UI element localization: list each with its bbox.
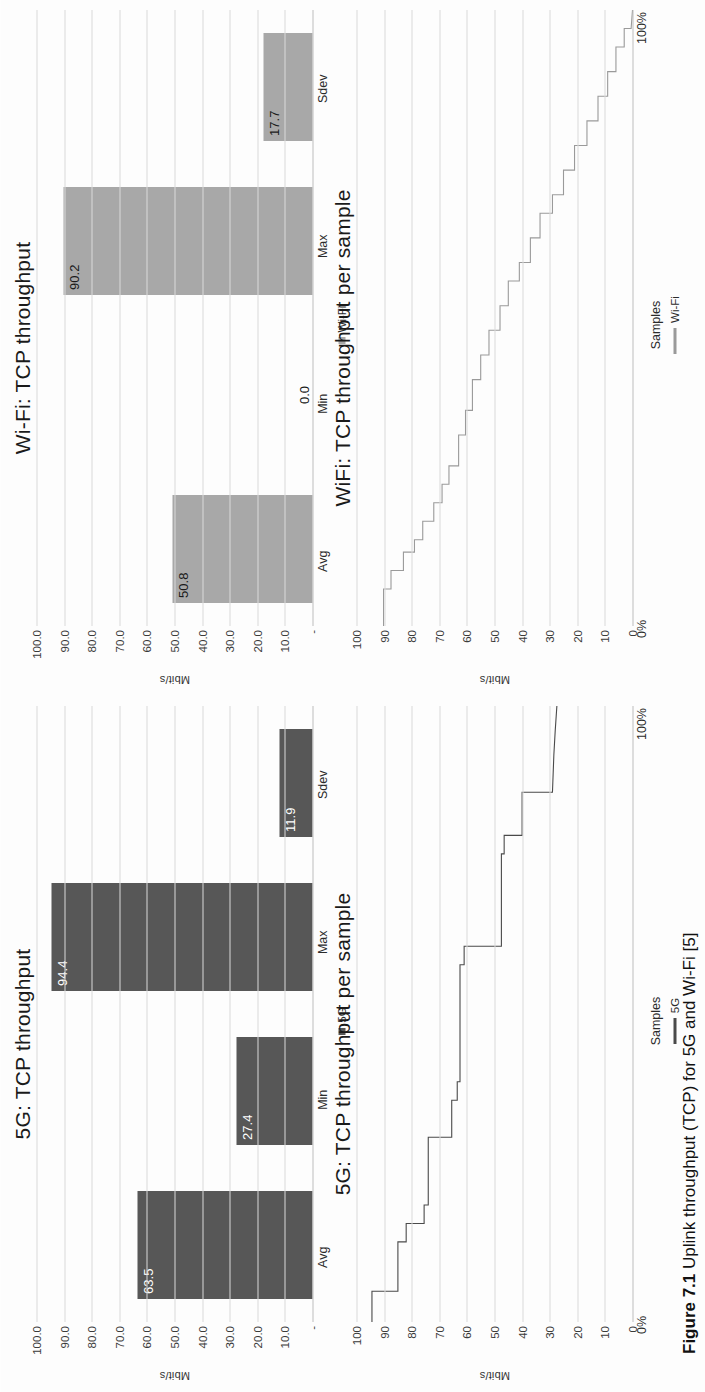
y-tick-label: 40	[516, 630, 528, 643]
gridline	[384, 10, 385, 626]
scanned-page-rotation-wrapper: 5G: TCP throughput Mbit/s 100.090.080.07…	[0, 0, 705, 1392]
gridline	[257, 10, 258, 626]
chart-title-5g-line: 5G: TCP throughput per sample	[330, 706, 354, 1382]
panel-wifi-bar-chart: Wi-Fi: TCP throughput Mbit/s 100.090.080…	[0, 0, 320, 696]
gridline	[174, 10, 175, 626]
y-tick-label: 90.0	[58, 630, 70, 652]
series-path	[383, 10, 632, 626]
gridline	[494, 10, 495, 626]
bar[interactable]: 50.8	[172, 495, 312, 603]
series-path	[371, 706, 556, 1322]
y-tick-label: 50	[488, 630, 500, 643]
bar[interactable]: 17.7	[263, 33, 312, 141]
figure-grid: 5G: TCP throughput Mbit/s 100.090.080.07…	[0, 0, 640, 1392]
chart-title-wifi-bar: Wi-Fi: TCP throughput	[10, 10, 34, 686]
gridline	[36, 10, 37, 626]
y-tick-label: 20	[571, 630, 583, 643]
chart-title-wifi-line: WiFi: TCP throughput per sample	[330, 10, 354, 686]
legend-wifi-line: Wi-Fi	[668, 10, 680, 640]
figure-caption-label: Figure 7.1	[679, 1274, 698, 1354]
gridline	[174, 706, 175, 1322]
gridline	[119, 706, 120, 1322]
x-axis-endpoints-5g-line: 0% 100%	[632, 706, 648, 1336]
y-tick-label: 30.0	[223, 1326, 235, 1348]
legend-5g-line: 5G	[668, 706, 680, 1336]
gridline	[229, 10, 230, 626]
gridline	[522, 10, 523, 626]
y-tick-label: 100	[350, 630, 362, 649]
y-tick-label: 100.0	[30, 630, 42, 659]
y-tick-label: 60.0	[140, 630, 152, 652]
y-tick-label: 20.0	[251, 630, 263, 652]
y-tick-label: 30	[543, 630, 555, 643]
plot-canvas-5g-line	[356, 706, 632, 1322]
gridline	[439, 10, 440, 626]
bar-value-label: 90.2	[63, 265, 81, 295]
y-tick-label: 70.0	[113, 630, 125, 652]
figure-caption: Figure 7.1 Uplink throughput (TCP) for 5…	[679, 34, 699, 1354]
y-tick-label: 70	[433, 630, 445, 643]
gridline	[202, 10, 203, 626]
gridline	[64, 10, 65, 626]
panel-5g-line-chart: 5G: TCP throughput per sample Mbit/s 100…	[320, 696, 640, 1392]
bar[interactable]: 27.4	[236, 1037, 312, 1145]
bar[interactable]: 94.4	[51, 883, 312, 991]
y-tick-label: 0	[626, 630, 638, 636]
panel-5g-bar-chart: 5G: TCP throughput Mbit/s 100.090.080.07…	[0, 696, 320, 1392]
y-axis-ticks-wifi-line: 1009080706050403020100	[356, 626, 632, 672]
y-axis-ticks-5g-line: 1009080706050403020100	[356, 1322, 632, 1368]
gridline	[36, 706, 37, 1322]
bar-value-label: 17.7	[263, 111, 281, 141]
gridline	[384, 706, 385, 1322]
gridline	[284, 10, 285, 626]
bar-value-label: 11.9	[279, 808, 297, 837]
x-axis-label-wifi-line: Samples	[648, 10, 662, 640]
y-tick-label: 90	[378, 1326, 390, 1339]
gridline	[356, 10, 357, 626]
y-tick-label: 20	[571, 1326, 583, 1339]
gridline	[146, 10, 147, 626]
gridline	[577, 706, 578, 1322]
y-tick-label: 80	[405, 630, 417, 643]
gridline	[91, 706, 92, 1322]
plot-canvas-5g-bar: 63.527.494.411.9	[36, 706, 312, 1322]
gridline	[632, 10, 633, 626]
gridline	[229, 706, 230, 1322]
plot-canvas-wifi-line	[356, 10, 632, 626]
gridline	[356, 706, 357, 1322]
gridline	[119, 10, 120, 626]
gridline	[632, 706, 633, 1322]
gridline	[257, 706, 258, 1322]
gridline	[312, 706, 313, 1322]
gridline	[466, 10, 467, 626]
y-tick-label: 90	[378, 630, 390, 643]
gridline	[604, 706, 605, 1322]
y-tick-label: 10	[598, 1326, 610, 1339]
bar-value-label: 94.4	[51, 961, 69, 991]
y-tick-label: 20.0	[251, 1326, 263, 1348]
y-axis-label-5g-line: Mbit/s	[479, 1370, 510, 1382]
gridline	[549, 10, 550, 626]
y-tick-label: 80	[405, 1326, 417, 1339]
y-axis-ticks-5g-bar: 100.090.080.070.060.050.040.030.020.010.…	[36, 1322, 312, 1368]
bar-value-label: 0.0	[296, 386, 311, 404]
y-tick-label: 10	[598, 630, 610, 643]
legend-label-5g-line: 5G	[668, 998, 680, 1013]
y-axis-label-5g-bar: Mbit/s	[159, 1370, 190, 1382]
x-axis-label-5g-line: Samples	[648, 706, 662, 1336]
legend-line-icon	[673, 1018, 676, 1044]
y-tick-label: 0	[626, 1326, 638, 1332]
y-tick-label: 40	[516, 1326, 528, 1339]
gridline	[411, 706, 412, 1322]
y-axis-label-wifi-line: Mbit/s	[479, 674, 510, 686]
plot-area-wifi-bar: Mbit/s 100.090.080.070.060.050.040.030.0…	[36, 10, 312, 686]
y-tick-label: 80.0	[85, 1326, 97, 1348]
y-tick-label: 60	[460, 1326, 472, 1339]
y-tick-label: 10.0	[278, 630, 290, 652]
y-axis-label-wifi-bar: Mbit/s	[159, 674, 190, 686]
bar[interactable]: 90.2	[63, 187, 312, 295]
y-tick-label: 10.0	[278, 1326, 290, 1348]
scanned-page: 5G: TCP throughput Mbit/s 100.090.080.07…	[0, 0, 705, 1392]
gridline	[146, 706, 147, 1322]
y-tick-label: 30.0	[223, 630, 235, 652]
